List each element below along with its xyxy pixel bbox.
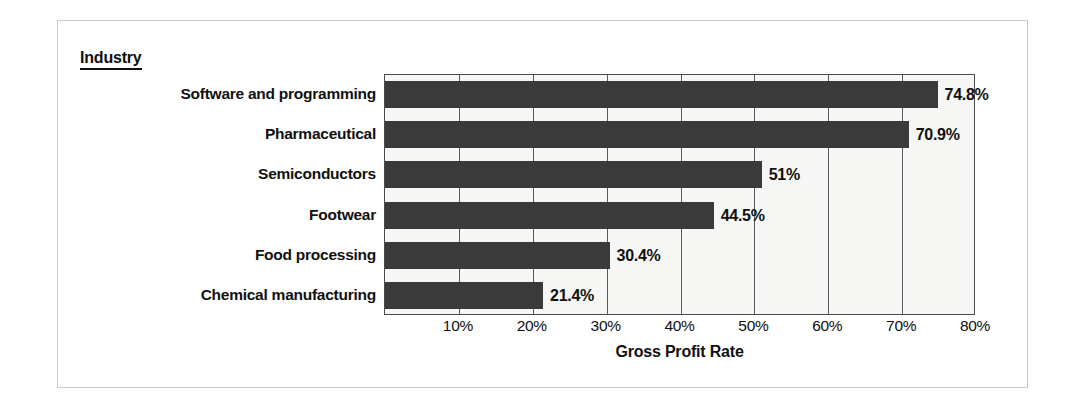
x-axis-tick-labels: 10%20%30%40%50%60%70%80% (384, 317, 975, 341)
bar[interactable] (385, 282, 543, 309)
bar-value-label: 21.4% (543, 282, 594, 309)
bar[interactable] (385, 242, 610, 269)
bar-value-label: 51% (762, 161, 800, 188)
category-label: Pharmaceutical (265, 114, 376, 154)
x-tick-label: 20% (517, 317, 547, 335)
bar-value-label: 70.9% (909, 121, 960, 148)
plot-area: 74.8%70.9%51%44.5%30.4%21.4% (384, 74, 975, 315)
bar-row: 21.4% (385, 276, 974, 316)
x-tick-label: 70% (886, 317, 916, 335)
bar-row: 70.9% (385, 115, 974, 155)
bar-row: 44.5% (385, 196, 974, 236)
chart-frame: Industry Software and programmingPharmac… (57, 20, 1028, 388)
x-tick-label: 60% (812, 317, 842, 335)
category-label: Chemical manufacturing (201, 275, 376, 315)
industry-axis-heading: Industry (80, 49, 142, 70)
x-axis-title: Gross Profit Rate (384, 343, 975, 361)
bar-value-label: 44.5% (714, 202, 765, 229)
x-tick-label: 10% (443, 317, 473, 335)
chart-body: Software and programmingPharmaceuticalSe… (58, 74, 1029, 315)
bar[interactable] (385, 202, 714, 229)
bar[interactable] (385, 121, 909, 148)
category-label-column: Software and programmingPharmaceuticalSe… (58, 74, 384, 315)
category-label: Software and programming (180, 74, 376, 114)
bar-value-label: 30.4% (610, 242, 661, 269)
category-label: Food processing (255, 235, 376, 275)
x-tick-label: 40% (664, 317, 694, 335)
x-tick-label: 50% (738, 317, 768, 335)
bar[interactable] (385, 161, 762, 188)
category-label: Footwear (309, 195, 376, 235)
x-tick-label: 80% (960, 317, 990, 335)
bar-row: 74.8% (385, 75, 974, 115)
x-tick-label: 30% (591, 317, 621, 335)
bar-row: 30.4% (385, 236, 974, 276)
bar-value-label: 74.8% (938, 81, 989, 108)
bar-row: 51% (385, 155, 974, 195)
bar[interactable] (385, 81, 938, 108)
category-label: Semiconductors (258, 154, 376, 194)
